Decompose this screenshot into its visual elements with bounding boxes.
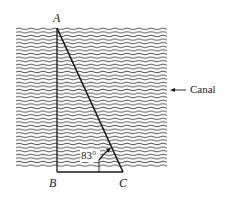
canal-water-region: [16, 27, 167, 167]
angle-label: 83°: [81, 150, 96, 161]
point-label-C: C: [119, 177, 127, 189]
point-label-B: B: [49, 177, 56, 189]
arrow-left-icon: [170, 88, 175, 92]
point-label-A: A: [53, 12, 60, 24]
canal-diagram: [0, 0, 230, 202]
canal-label: Canal: [190, 84, 216, 95]
